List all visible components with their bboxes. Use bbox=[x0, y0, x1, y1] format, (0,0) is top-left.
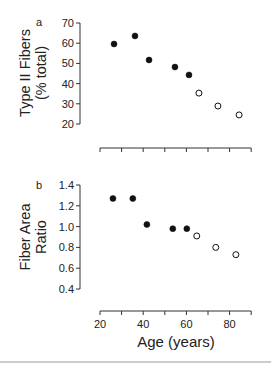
y-tick-label: 40 bbox=[62, 78, 74, 90]
filled-circle-point bbox=[172, 64, 178, 70]
y-tick-label: 0.6 bbox=[59, 262, 74, 274]
filled-circle-point bbox=[110, 196, 116, 202]
panel-b-data-points bbox=[110, 196, 239, 258]
open-circle-point bbox=[194, 233, 200, 239]
panel-b-ylabel-line1: Fiber Area bbox=[17, 203, 33, 271]
panel-a-y-axis: 203040506070 bbox=[62, 17, 80, 130]
y-tick-label: 30 bbox=[62, 98, 74, 110]
y-tick-label: 0.8 bbox=[59, 241, 74, 253]
y-tick-label: 0.4 bbox=[59, 283, 74, 295]
open-circle-point bbox=[233, 252, 239, 258]
panel-b-x-axis: 20406080 bbox=[94, 311, 251, 330]
panel-b-y-axis: 0.40.60.81.01.21.4 bbox=[59, 179, 80, 295]
open-circle-point bbox=[196, 90, 202, 96]
y-tick-label: 50 bbox=[62, 57, 74, 69]
panel-b-ylabel-line2: Ratio bbox=[33, 220, 49, 254]
filled-circle-point bbox=[186, 72, 192, 78]
filled-circle-point bbox=[144, 222, 150, 228]
filled-circle-point bbox=[132, 33, 138, 39]
scatter-chart-figure: a Type II Fibers (% total) 203040506070 … bbox=[0, 0, 271, 366]
panel-a-ylabel-line2: (% total) bbox=[33, 46, 49, 100]
open-circle-point bbox=[236, 112, 242, 118]
panel-a-x-axis bbox=[100, 148, 251, 152]
x-axis-title: Age (years) bbox=[137, 333, 215, 350]
panel-b-letter: b bbox=[36, 179, 42, 191]
open-circle-point bbox=[215, 103, 221, 109]
x-tick-label: 20 bbox=[94, 318, 106, 330]
filled-circle-point bbox=[130, 196, 136, 202]
filled-circle-point bbox=[146, 57, 152, 63]
panel-a-letter: a bbox=[36, 16, 43, 28]
y-tick-label: 1.2 bbox=[59, 200, 74, 212]
x-tick-label: 80 bbox=[223, 318, 235, 330]
y-tick-label: 60 bbox=[62, 37, 74, 49]
open-circle-point bbox=[213, 244, 219, 250]
panel-a: a Type II Fibers (% total) 203040506070 bbox=[17, 16, 251, 152]
filled-circle-point bbox=[184, 226, 190, 232]
x-tick-label: 40 bbox=[137, 318, 149, 330]
panel-a-data-points bbox=[111, 33, 242, 118]
x-tick-label: 60 bbox=[180, 318, 192, 330]
y-tick-label: 1.4 bbox=[59, 179, 74, 191]
y-tick-label: 20 bbox=[62, 118, 74, 130]
panel-a-ylabel-line1: Type II Fibers bbox=[17, 29, 33, 117]
y-tick-label: 1.0 bbox=[59, 221, 74, 233]
panel-b: b Fiber Area Ratio 0.40.60.81.01.21.4 20… bbox=[17, 179, 251, 350]
filled-circle-point bbox=[170, 226, 176, 232]
filled-circle-point bbox=[111, 41, 117, 47]
y-tick-label: 70 bbox=[62, 17, 74, 29]
